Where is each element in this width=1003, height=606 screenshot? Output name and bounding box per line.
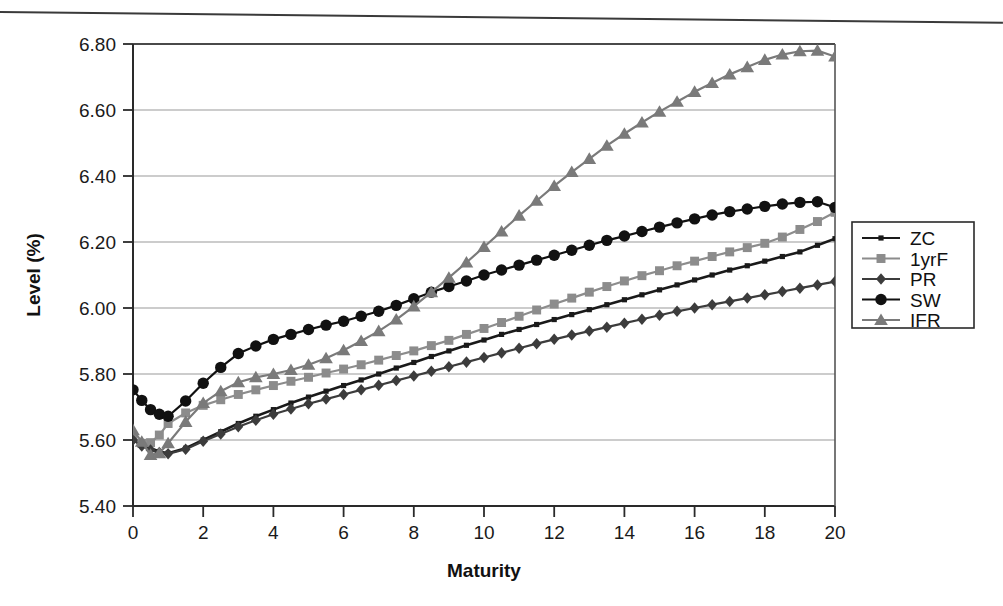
data-point-marker: [391, 375, 401, 387]
data-point-marker: [877, 254, 886, 263]
data-point-marker: [812, 196, 823, 207]
x-tick-label: 12: [544, 522, 565, 543]
x-tick-label: 20: [824, 522, 845, 543]
chart-legend: ZC1yrFPRSWIFR: [852, 222, 974, 331]
data-point-marker: [619, 230, 630, 241]
data-point-marker: [745, 263, 750, 268]
x-tick-label: 4: [268, 522, 279, 543]
data-point-marker: [797, 249, 802, 254]
data-point-marker: [234, 390, 243, 399]
series-layer: [126, 44, 842, 460]
data-point-marker: [673, 261, 682, 270]
data-point-marker: [622, 297, 627, 302]
data-point-marker: [829, 202, 840, 213]
data-point-marker: [602, 282, 611, 291]
data-point-marker: [552, 317, 557, 322]
data-point-marker: [566, 245, 577, 256]
data-point-marker: [637, 271, 646, 280]
data-point-marker: [727, 267, 732, 272]
data-point-marker: [497, 318, 506, 327]
data-point-marker: [780, 254, 785, 259]
data-point-marker: [251, 385, 260, 394]
legend-label-PR: PR: [910, 269, 936, 290]
data-point-marker: [196, 397, 210, 409]
data-point-marker: [394, 365, 399, 370]
data-point-marker: [813, 217, 822, 226]
data-point-marker: [778, 233, 787, 242]
data-point-marker: [584, 240, 595, 251]
y-tick-label: 6.00: [79, 298, 116, 319]
x-axis-ticks: 02468101214161820: [128, 506, 846, 543]
y-tick-label: 5.40: [79, 496, 116, 517]
data-point-marker: [604, 302, 609, 307]
data-point-marker: [250, 340, 261, 351]
data-point-marker: [426, 366, 436, 378]
data-point-marker: [268, 334, 279, 345]
legend-label-IFR: IFR: [910, 310, 941, 331]
series-IFR: [126, 44, 842, 460]
data-point-marker: [356, 384, 366, 396]
data-point-marker: [705, 76, 719, 88]
data-point-marker: [197, 378, 208, 389]
y-tick-label: 6.40: [79, 166, 116, 187]
series-SW: [127, 196, 840, 422]
data-point-marker: [478, 269, 489, 280]
series-PR: [128, 276, 840, 460]
data-point-marker: [743, 243, 752, 252]
data-point-marker: [689, 213, 700, 224]
data-point-marker: [670, 95, 684, 107]
data-point-marker: [373, 306, 384, 317]
data-point-marker: [794, 197, 805, 208]
data-point-marker: [285, 329, 296, 340]
data-point-marker: [127, 384, 138, 395]
data-point-marker: [354, 335, 368, 347]
data-point-marker: [724, 206, 735, 217]
data-point-marker: [585, 288, 594, 297]
data-point-marker: [409, 370, 419, 382]
data-point-marker: [359, 377, 364, 382]
data-point-marker: [690, 257, 699, 266]
y-tick-label: 6.60: [79, 100, 116, 121]
data-point-marker: [514, 343, 524, 355]
data-point-marker: [639, 292, 644, 297]
data-point-marker: [341, 383, 346, 388]
y-tick-label: 5.80: [79, 364, 116, 385]
y-axis-ticks: 5.405.605.806.006.206.406.606.80: [79, 34, 133, 517]
data-point-marker: [567, 329, 577, 341]
x-tick-label: 6: [338, 522, 349, 543]
data-point-marker: [635, 116, 649, 128]
data-point-marker: [708, 252, 717, 261]
data-point-marker: [759, 201, 770, 212]
x-tick-label: 2: [198, 522, 209, 543]
data-point-marker: [321, 393, 331, 405]
data-point-marker: [126, 424, 140, 436]
data-point-marker: [742, 292, 752, 304]
data-point-marker: [653, 105, 667, 117]
data-point-marker: [569, 312, 574, 317]
legend-label-ZC: ZC: [910, 228, 935, 249]
data-point-marker: [795, 282, 805, 294]
data-point-marker: [372, 325, 386, 337]
data-point-marker: [723, 68, 737, 80]
data-point-marker: [136, 395, 147, 406]
data-point-marker: [339, 365, 348, 374]
data-point-marker: [740, 61, 754, 73]
data-point-marker: [337, 344, 351, 356]
data-point-marker: [815, 243, 820, 248]
data-point-marker: [215, 362, 226, 373]
data-point-marker: [304, 398, 314, 410]
data-point-marker: [725, 247, 734, 256]
data-point-marker: [320, 319, 331, 330]
data-point-marker: [481, 337, 486, 342]
x-tick-label: 0: [128, 522, 139, 543]
y-tick-label: 6.20: [79, 232, 116, 253]
data-point-marker: [692, 277, 697, 282]
data-point-marker: [323, 389, 328, 394]
data-point-marker: [777, 286, 787, 298]
data-point-marker: [155, 431, 164, 440]
data-point-marker: [319, 352, 333, 364]
data-point-marker: [269, 381, 278, 390]
data-point-marker: [517, 327, 522, 332]
data-point-marker: [655, 266, 664, 275]
data-point-marker: [777, 198, 788, 209]
